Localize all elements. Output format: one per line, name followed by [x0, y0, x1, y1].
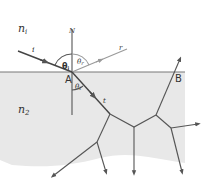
- transmitted-ray-label: t: [103, 97, 106, 105]
- transmitted-angle-label: θt: [75, 83, 82, 91]
- point-b-label: B: [175, 73, 182, 84]
- refraction-scattering-diagram: ni n2 N i r t θi θr θt A B: [0, 0, 211, 193]
- reflected-angle-label: θr: [77, 58, 84, 66]
- incident-ray-label: i: [32, 45, 35, 54]
- upper-medium-label: ni: [18, 22, 27, 36]
- normal-label: N: [68, 27, 76, 35]
- reflected-ray-arrow: [96, 60, 101, 62]
- lower-medium-region: [0, 72, 185, 166]
- incident-angle-label: θi: [62, 62, 70, 71]
- point-a-label: A: [65, 74, 72, 85]
- incident-ray-arrow: [40, 60, 46, 62]
